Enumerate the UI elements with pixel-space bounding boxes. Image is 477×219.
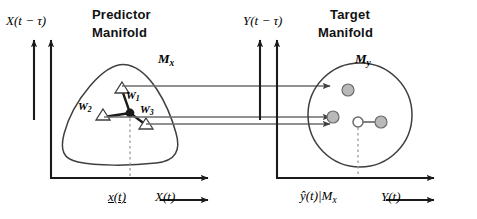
target-manifold-label-base: M (355, 51, 367, 66)
predictor-state-axis-label: x(t) (108, 190, 126, 203)
target-manifold-shape (308, 63, 412, 167)
weight-label-1: W1 (126, 90, 140, 103)
target-predicted-point (353, 117, 363, 127)
target-manifold-label: My (355, 52, 371, 68)
right-y-axis-label: Y(t − τ) (243, 14, 282, 27)
left-y-axis-label: X(t − τ) (6, 14, 46, 27)
target-title-line2: Manifold (318, 26, 373, 39)
target-point-1 (342, 84, 354, 96)
target-manifold-label-sub: y (367, 58, 371, 68)
target-points (327, 84, 387, 128)
predictor-manifold-label-base: M (158, 51, 170, 66)
predictor-manifold-label-sub: x (170, 58, 175, 68)
predictor-title-line2: Manifold (92, 26, 147, 39)
left-x-axis-label: X(t) (155, 190, 175, 203)
diagram-canvas: X(t − τ) Predictor Manifold Mx W1 W2 W3 … (0, 0, 477, 219)
target-point-3 (375, 116, 387, 128)
target-prediction-axis-label: ŷ(t)|Mx (300, 189, 337, 205)
predictor-state-point (126, 109, 135, 118)
neighbor-triangle-2 (96, 109, 110, 120)
target-point-2 (327, 111, 339, 123)
target-title-line1: Target (330, 8, 370, 21)
predictor-manifold-label: Mx (158, 52, 174, 68)
diagram-vector-layer (0, 0, 477, 219)
weight-label-2: W2 (78, 101, 92, 114)
predictor-title-line1: Predictor (92, 8, 151, 21)
right-x-axis-label: Y(t) (381, 190, 401, 203)
weight-label-3: W3 (140, 104, 154, 117)
